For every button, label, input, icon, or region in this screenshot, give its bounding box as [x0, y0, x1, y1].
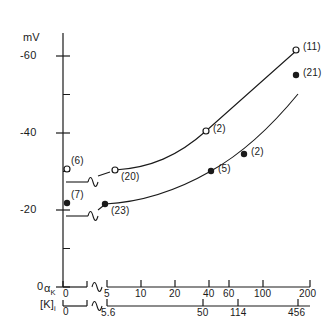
annotation-open-11: (11) — [303, 42, 321, 52]
x-tick-label-60: 60 — [223, 289, 235, 299]
data-point-filled-7 — [64, 200, 70, 206]
annotation-filled-2: (2) — [251, 147, 264, 157]
data-point-filled-23 — [102, 201, 108, 207]
annotation-open-6: (6) — [71, 156, 84, 166]
annotation-filled-21: (21) — [303, 68, 322, 78]
data-point-filled-2 — [241, 151, 247, 157]
x-tick-label-50: 50 — [197, 308, 209, 318]
x-tick-label-456: 456 — [288, 308, 305, 318]
y-tick-label-minus20: -20 — [20, 204, 37, 215]
data-point-open-11 — [293, 47, 299, 53]
x-primary-zero-label: 0 — [63, 289, 69, 299]
x-axis-secondary-name: [K]i — [40, 299, 56, 313]
filled-series-break-connector — [66, 206, 103, 221]
chart-canvas — [0, 0, 331, 324]
x-tick-label-20: 20 — [169, 289, 181, 299]
x-tick-label-114: 114 — [230, 308, 247, 318]
filled-series-curve — [105, 94, 298, 204]
alpha-subscript: K — [51, 288, 56, 297]
data-point-open-20 — [112, 167, 118, 173]
annotation-filled-5: (5) — [218, 164, 231, 174]
data-point-filled-21 — [293, 72, 299, 78]
x-axis-primary — [63, 280, 310, 292]
data-point-filled-5 — [208, 168, 214, 174]
y-tick-label-minus60: -60 — [20, 50, 37, 61]
x-tick-label-40: 40 — [203, 289, 215, 299]
x-axis-primary-name: αK — [44, 283, 56, 297]
data-point-open-6 — [64, 166, 70, 172]
open-series-curve — [115, 51, 296, 170]
y-axis-unit-label: mV — [23, 32, 40, 43]
open-series-break-connector — [66, 172, 110, 187]
annotation-filled-23: (23) — [111, 206, 130, 216]
x-tick-label-200: 200 — [299, 289, 316, 299]
x-tick-label-5-6: 5.6 — [101, 308, 116, 318]
y-tick-label-zero: 0 — [37, 281, 43, 292]
bracket-k-subscript: i — [54, 304, 56, 313]
annotation-filled-7: (7) — [71, 190, 84, 200]
bracket-k-glyph: [K] — [40, 298, 54, 310]
x-tick-label-10: 10 — [135, 289, 147, 299]
x-secondary-zero-label: 0 — [63, 307, 69, 317]
data-point-open-2 — [203, 128, 209, 134]
x-tick-label-5: 5 — [104, 289, 110, 299]
figure-container: mV -60 -40 -20 0 (6) (20) (2) (11) (7) (… — [0, 0, 331, 324]
annotation-open-2: (2) — [213, 124, 226, 134]
y-tick-label-minus40: -40 — [20, 127, 37, 138]
annotation-open-20: (20) — [121, 172, 140, 182]
x-tick-label-100: 100 — [254, 289, 271, 299]
